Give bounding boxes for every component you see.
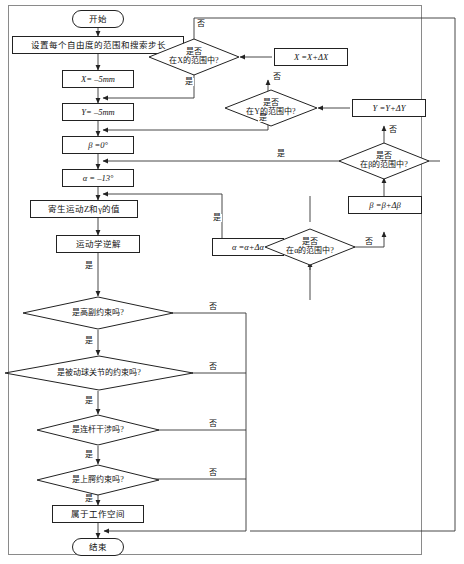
decision-range-y-line2: 在Y的范围中?	[246, 107, 295, 116]
decision-range-x-text: 是否 在X的范围中?	[169, 48, 218, 66]
node-init-y-label: Y= –5mm	[81, 108, 114, 117]
node-start-label: 开始	[89, 15, 107, 24]
edge-label-yes-ball-joint: 是	[84, 397, 94, 405]
node-parasitic-motion: 寄生运动Z和γ的值	[30, 200, 138, 218]
node-init-x-label: X= –5mm	[81, 75, 115, 84]
edge-label-yes-inverse-to-high-pair: 是	[84, 262, 94, 270]
edge-label-no-link-interference: 否	[208, 420, 218, 428]
edge-label-no-high-pair: 否	[208, 303, 218, 311]
decision-range-x-line2: 在X的范围中?	[169, 56, 218, 65]
decision-range-y-line1: 是否	[263, 98, 279, 107]
node-end-label: 结束	[89, 543, 107, 552]
node-init-y: Y= –5mm	[62, 103, 134, 121]
node-in-workspace: 属于工作空间	[52, 505, 144, 523]
node-increment-beta: β =β+Δβ	[348, 196, 422, 214]
decision-range-y-text: 是否 在Y的范围中?	[246, 99, 295, 117]
edge-label-yes-range-x: 是	[184, 78, 194, 86]
decision-range-y: 是否 在Y的范围中?	[224, 89, 318, 127]
node-set-ranges-label: 设置每个自由度的范围和搜索步长	[31, 41, 166, 50]
decision-maxilla-text: 是上腭约束吗?	[72, 476, 124, 485]
edge-label-yes-link-interference: 是	[84, 451, 94, 459]
decision-maxilla-constraint: 是上腭约束吗?	[36, 464, 160, 496]
node-init-beta: β =0°	[62, 136, 134, 154]
edge-label-no-range-alpha: 否	[364, 238, 374, 246]
node-end: 结束	[72, 538, 124, 556]
decision-range-x: 是否 在X的范围中?	[148, 38, 240, 76]
edge-label-yes-maxilla: 是	[84, 495, 94, 503]
decision-link-interference-text: 是连杆干涉吗?	[72, 426, 124, 435]
node-increment-beta-label: β =β+Δβ	[369, 201, 400, 210]
decision-range-beta-line1: 是否	[376, 151, 392, 160]
decision-range-beta: 是否 在β的范围中?	[338, 142, 430, 180]
node-increment-y-label: Y =Y+ΔY	[373, 104, 406, 113]
node-init-alpha: α = –13°	[62, 169, 134, 187]
edge-label-no-maxilla: 否	[208, 469, 218, 477]
edge-label-no-ball-joint: 否	[208, 363, 218, 371]
decision-range-alpha: 是否 在α的范围中?	[264, 228, 356, 266]
decision-range-alpha-text: 是否 在α的范围中?	[286, 238, 334, 256]
node-init-x: X= –5mm	[62, 70, 134, 88]
node-increment-x-label: X =X+ΔX	[294, 53, 328, 62]
node-in-workspace-label: 属于工作空间	[71, 510, 125, 519]
node-parasitic-motion-label: 寄生运动Z和γ的值	[48, 205, 120, 214]
node-increment-alpha-label: α =α+Δα	[232, 243, 264, 252]
node-inverse-kinematics-label: 运动学逆解	[76, 240, 121, 249]
edge-label-yes-high-pair: 是	[84, 337, 94, 345]
edge-label-no-range-x: 否	[196, 20, 206, 28]
node-init-alpha-label: α = –13°	[83, 174, 114, 183]
flowchart-canvas: 开始 设置每个自由度的范围和搜索步长 X= –5mm Y= –5mm β =0°…	[0, 0, 464, 564]
decision-range-alpha-line1: 是否	[302, 237, 318, 246]
node-increment-y: Y =Y+ΔY	[352, 99, 426, 117]
decision-range-beta-text: 是否 在β的范围中?	[360, 152, 408, 170]
decision-ball-joint-constraint: 是被动球关节的约束吗?	[4, 355, 194, 391]
edge-label-yes-range-beta: 是	[276, 150, 286, 158]
decision-high-pair-constraint: 是高副约束吗?	[22, 296, 174, 330]
decision-high-pair-text: 是高副约束吗?	[72, 309, 124, 318]
edge-label-yes-range-alpha: 是	[212, 214, 222, 222]
node-start: 开始	[72, 10, 124, 28]
decision-range-x-line1: 是否	[186, 47, 202, 56]
decision-link-interference: 是连杆干涉吗?	[36, 414, 160, 446]
decision-range-alpha-line2: 在α的范围中?	[286, 246, 334, 255]
edge-label-no-range-y: 否	[272, 73, 282, 81]
decision-ball-joint-text: 是被动球关节的约束吗?	[57, 369, 141, 378]
edge-label-no-range-beta: 否	[388, 126, 398, 134]
node-inverse-kinematics: 运动学逆解	[56, 235, 140, 253]
decision-range-beta-line2: 在β的范围中?	[360, 160, 408, 169]
node-increment-x: X =X+ΔX	[274, 48, 348, 66]
node-init-beta-label: β =0°	[88, 141, 108, 150]
